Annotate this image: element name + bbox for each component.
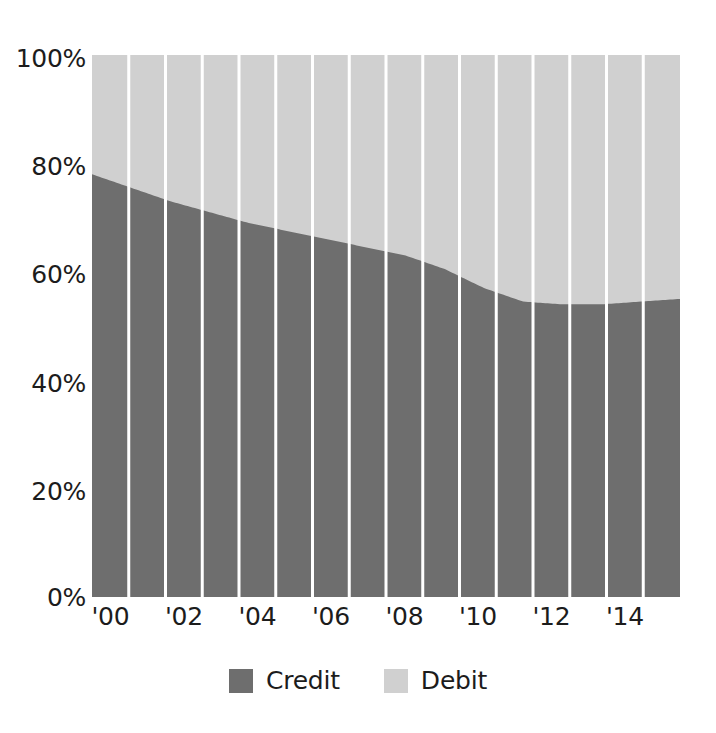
legend-label-debit: Debit <box>421 668 487 693</box>
x-axis: '00'02'04'06'08'10'12'14 <box>92 600 680 640</box>
plot-svg <box>92 55 680 597</box>
legend-item-credit: Credit <box>229 668 340 693</box>
column-separator <box>385 55 388 597</box>
plot-area <box>92 55 680 597</box>
x-tick-label-08: '08 <box>385 604 423 629</box>
y-axis: 100% 80% 60% 40% 20% 0% <box>0 0 86 733</box>
column-separator <box>568 55 571 597</box>
column-separator <box>311 55 314 597</box>
chart-legend: Credit Debit <box>0 668 716 693</box>
y-tick-label-40: 40% <box>2 371 86 396</box>
y-tick-label-100: 100% <box>2 46 86 71</box>
column-separator <box>164 55 167 597</box>
x-tick-label-04: '04 <box>238 604 276 629</box>
column-separator <box>127 55 130 597</box>
credit-swatch-icon <box>229 669 253 693</box>
column-separator <box>532 55 535 597</box>
stacked-area-chart: 100% 80% 60% 40% 20% 0% '00'02'04'06'08'… <box>0 0 716 733</box>
x-tick-label-06: '06 <box>312 604 350 629</box>
column-separator <box>605 55 608 597</box>
y-tick-label-0: 0% <box>2 585 86 610</box>
y-tick-label-60: 60% <box>2 262 86 287</box>
column-separator <box>201 55 204 597</box>
column-separator <box>274 55 277 597</box>
column-separator <box>348 55 351 597</box>
debit-swatch-icon <box>384 669 408 693</box>
legend-item-debit: Debit <box>384 668 487 693</box>
column-separator <box>421 55 424 597</box>
x-tick-label-00: '00 <box>91 604 129 629</box>
column-separator <box>495 55 498 597</box>
x-tick-label-02: '02 <box>165 604 203 629</box>
column-separator <box>458 55 461 597</box>
y-tick-label-20: 20% <box>2 479 86 504</box>
x-tick-label-12: '12 <box>532 604 570 629</box>
y-tick-label-80: 80% <box>2 154 86 179</box>
column-separator <box>642 55 645 597</box>
column-separator <box>238 55 241 597</box>
legend-label-credit: Credit <box>266 668 340 693</box>
x-tick-label-10: '10 <box>459 604 497 629</box>
x-tick-label-14: '14 <box>606 604 644 629</box>
